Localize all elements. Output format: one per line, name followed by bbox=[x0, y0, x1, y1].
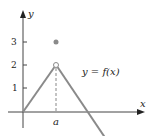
y-axis-arrow-icon bbox=[20, 10, 26, 18]
open-point-limit bbox=[54, 63, 59, 68]
y-axis-label: y bbox=[27, 8, 34, 19]
y-tick-label-1: 1 bbox=[12, 83, 18, 93]
x-axis-label: x bbox=[140, 98, 146, 109]
y-tick-label-3: 3 bbox=[11, 37, 17, 47]
function-graph: 3 2 1 y x a y = f(x) bbox=[0, 0, 146, 136]
y-tick-label-2: 2 bbox=[11, 60, 17, 70]
function-label: y = f(x) bbox=[81, 66, 120, 77]
curve-left-segment bbox=[23, 67, 55, 112]
curve-right-segment bbox=[58, 67, 109, 136]
x-axis-arrow-icon bbox=[137, 109, 145, 115]
filled-point-f-of-a bbox=[54, 40, 59, 45]
x-tick-label-a: a bbox=[53, 116, 59, 127]
